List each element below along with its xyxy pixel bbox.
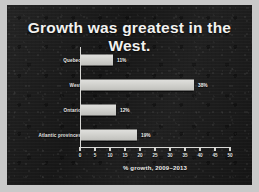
category-label-ontario: Ontario bbox=[64, 107, 81, 112]
value-label-quebec: 11% bbox=[117, 57, 126, 62]
presentation-slide: Growth was greatest in the West. Quebec … bbox=[7, 5, 252, 185]
x-axis-tick bbox=[214, 147, 215, 151]
value-label-ontario: 12% bbox=[120, 107, 130, 112]
x-axis-tick-label: 15 bbox=[122, 153, 127, 158]
x-axis-tick-label: 10 bbox=[107, 153, 112, 158]
bar-chart: Quebec 11% West 38% Ontario 12% Atlantic… bbox=[23, 47, 237, 177]
x-axis-tick bbox=[229, 147, 230, 151]
plot-area: Quebec 11% West 38% Ontario 12% Atlantic… bbox=[23, 47, 237, 147]
x-axis-tick bbox=[109, 147, 110, 151]
x-axis-tick bbox=[124, 147, 125, 151]
x-axis-tick bbox=[79, 147, 80, 151]
x-axis-tick-label: 45 bbox=[212, 153, 217, 158]
bar-quebec bbox=[80, 54, 113, 65]
x-axis-caption: % growth, 2009–2013 bbox=[80, 165, 230, 171]
x-axis-tick-label: 5 bbox=[94, 153, 97, 158]
bar-row: West 38% bbox=[23, 72, 237, 97]
x-axis-tick bbox=[139, 147, 140, 151]
x-axis-tick bbox=[199, 147, 200, 151]
x-axis-tick-label: 50 bbox=[227, 153, 232, 158]
slide-title: Growth was greatest in the West. bbox=[7, 19, 252, 55]
bar-atlantic-provinces bbox=[80, 129, 137, 140]
slide-outer-frame: Growth was greatest in the West. Quebec … bbox=[0, 0, 259, 192]
category-label-atlantic-provinces: Atlantic provinces bbox=[38, 132, 81, 137]
value-label-west: 38% bbox=[198, 82, 208, 87]
x-axis-tick bbox=[154, 147, 155, 151]
x-axis-tick-label: 30 bbox=[167, 153, 172, 158]
x-axis-tick-label: 25 bbox=[152, 153, 157, 158]
x-axis-tick-label: 40 bbox=[197, 153, 202, 158]
category-label-quebec: Quebec bbox=[63, 57, 81, 62]
category-axis-line bbox=[80, 47, 81, 147]
x-axis-tick bbox=[169, 147, 170, 151]
bar-row: Atlantic provinces 19% bbox=[23, 122, 237, 147]
x-axis-tick bbox=[184, 147, 185, 151]
x-axis-tick-label: 0 bbox=[79, 153, 82, 158]
bar-ontario bbox=[80, 104, 116, 115]
bar-row: Ontario 12% bbox=[23, 97, 237, 122]
bar-west bbox=[80, 79, 194, 90]
x-axis-tick-label: 35 bbox=[182, 153, 187, 158]
value-label-atlantic-provinces: 19% bbox=[141, 132, 151, 137]
x-axis-tick bbox=[94, 147, 95, 151]
x-axis-tick-label: 20 bbox=[137, 153, 142, 158]
